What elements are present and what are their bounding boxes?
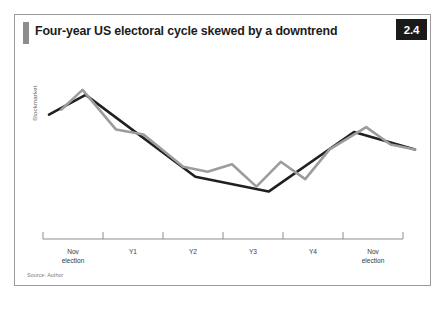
x-tick-label-4: Y4 <box>309 247 317 256</box>
source-note: Source: Author <box>27 272 63 278</box>
page-title: Four-year US electoral cycle skewed by a… <box>35 24 337 38</box>
x-axis <box>43 232 403 239</box>
x-tick-label-line1: Nov <box>362 247 385 256</box>
x-tick-label-1: Y1 <box>129 247 137 256</box>
series-line-downtrend <box>49 95 415 192</box>
x-axis-tick-labels: NovelectionY1Y2Y3Y4Novelection <box>15 247 430 277</box>
plot-area: Stockmarket <box>15 49 430 249</box>
x-tick-label-line2: election <box>62 256 85 265</box>
x-tick-label-line2: election <box>362 256 385 265</box>
x-tick-label-0: Novelection <box>62 247 85 265</box>
figure-header: Four-year US electoral cycle skewed by a… <box>15 15 430 49</box>
series-line-electoral-cycle <box>61 90 415 187</box>
series-group <box>49 90 415 192</box>
x-tick-label-line1: Y4 <box>309 247 317 256</box>
chart-canvas <box>15 49 430 249</box>
x-tick-label-line1: Y1 <box>129 247 137 256</box>
figure-panel: Four-year US electoral cycle skewed by a… <box>14 14 431 286</box>
x-tick-label-2: Y2 <box>189 247 197 256</box>
x-tick-label-line1: Nov <box>62 247 85 256</box>
x-tick-label-line1: Y2 <box>189 247 197 256</box>
x-tick-label-line1: Y3 <box>249 247 257 256</box>
x-tick-label-5: Novelection <box>362 247 385 265</box>
x-tick-label-3: Y3 <box>249 247 257 256</box>
status-badge: 2.4 <box>396 19 427 40</box>
title-accent-bar <box>23 22 29 44</box>
